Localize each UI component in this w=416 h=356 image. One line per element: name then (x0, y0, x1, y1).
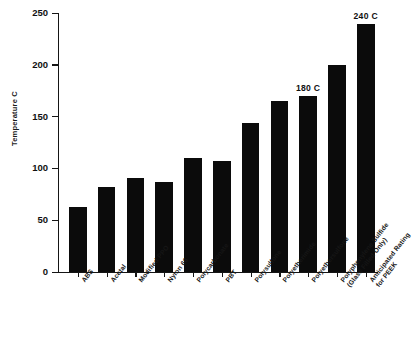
plot-area: 250200150100500 180 C240 C ABSAcetalModi… (58, 13, 403, 272)
y-axis-tick (52, 13, 58, 14)
y-axis-tick (52, 272, 58, 273)
y-axis-tick (52, 64, 58, 65)
bar (184, 158, 202, 272)
y-axis-line (58, 13, 59, 272)
x-axis-tick (135, 272, 136, 277)
bar (69, 207, 87, 272)
bar (127, 178, 145, 272)
x-axis-tick (279, 272, 280, 277)
y-axis-tick (52, 116, 58, 117)
y-axis-tick-label: 50 (14, 215, 48, 225)
x-axis-tick (251, 272, 252, 277)
y-axis-tick-label: 250 (14, 8, 48, 18)
x-axis-tick (366, 272, 367, 277)
x-axis-tick (107, 272, 108, 277)
x-axis-tick (222, 272, 223, 277)
y-axis-tick (52, 220, 58, 221)
y-axis-tick-label: 150 (14, 112, 48, 122)
bar-value-label: 180 C (288, 83, 328, 93)
y-axis-tick-label: 0 (14, 267, 48, 277)
y-axis-tick-label: 100 (14, 163, 48, 173)
x-axis-tick (337, 272, 338, 277)
bar (98, 187, 116, 272)
bar (242, 123, 260, 272)
y-axis-tick-label: 200 (14, 60, 48, 70)
x-axis-tick (193, 272, 194, 277)
y-axis-tick (52, 168, 58, 169)
x-axis-tick (164, 272, 165, 277)
x-axis-tick (308, 272, 309, 277)
bar-value-label: 240 C (346, 11, 386, 21)
bar (271, 101, 289, 272)
x-axis-tick (78, 272, 79, 277)
